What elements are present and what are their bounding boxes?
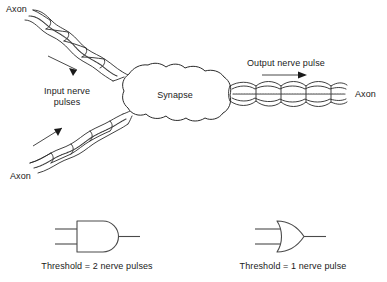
direction-arrow-lower-input (33, 128, 62, 146)
myelinated-axon-lower-input (30, 111, 132, 173)
figure-canvas (0, 0, 387, 282)
direction-arrow-upper-input (48, 56, 77, 76)
synapse-logic-figure: Axon Input nerve pulses Synapse Output n… (0, 0, 387, 282)
label-synapse: Synapse (145, 90, 205, 101)
label-input-nerve-pulses-line2: pulses (54, 97, 81, 107)
label-axon-right: Axon (355, 89, 376, 100)
label-output-nerve-pulse: Output nerve pulse (247, 58, 325, 69)
or-gate-symbol[interactable] (255, 221, 326, 252)
label-input-nerve-pulses: Input nerve pulses (34, 86, 100, 108)
caption-or-gate: Threshold = 1 nerve pulse (209, 261, 377, 272)
label-axon-bottom-left: Axon (10, 171, 31, 182)
label-axon-top-left: Axon (6, 4, 27, 15)
direction-arrow-output (262, 72, 307, 79)
label-input-nerve-pulses-line1: Input nerve (44, 86, 90, 96)
myelinated-axon-output (229, 82, 348, 107)
caption-and-gate: Threshold = 2 nerve pulses (13, 261, 181, 272)
and-gate-symbol[interactable] (55, 221, 140, 252)
